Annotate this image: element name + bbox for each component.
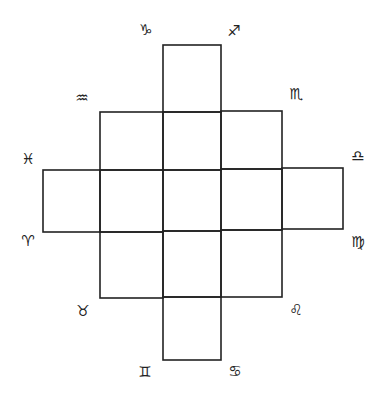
leo-icon: ♌ [289, 303, 302, 318]
cell-far-right [282, 168, 343, 229]
scorpio-icon: ♏ [289, 87, 302, 102]
virgo-icon: ♍ [351, 235, 364, 250]
cell-center [163, 170, 221, 231]
cell-bottom [163, 297, 221, 360]
aries-icon: ♈ [21, 234, 34, 249]
pisces-icon: ♓ [21, 152, 34, 167]
cell-mid-left [100, 170, 163, 232]
cross-grid [0, 0, 386, 400]
cell-mid-right [221, 169, 282, 230]
sagittarius-icon: ♐ [227, 24, 240, 39]
cell-upper-right [221, 111, 282, 169]
cell-upper-center [163, 112, 221, 170]
cell-lower-left [100, 232, 163, 298]
cancer-icon: ♋ [228, 364, 241, 379]
aquarius-icon: ♒ [75, 91, 88, 106]
cell-far-left [43, 170, 100, 232]
taurus-icon: ♉ [76, 304, 89, 319]
libra-icon: ♎ [351, 149, 364, 164]
capricorn-icon: ♑ [139, 23, 152, 38]
cell-lower-center [163, 231, 221, 297]
gemini-icon: ♊ [138, 365, 151, 380]
cell-top [163, 45, 221, 112]
cell-upper-left [100, 112, 163, 170]
cell-lower-right [221, 230, 282, 297]
